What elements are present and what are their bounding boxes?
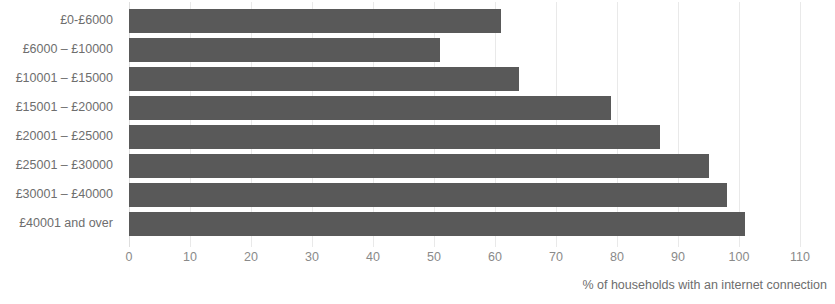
bar — [129, 154, 709, 178]
bar — [129, 183, 727, 207]
category-axis-labels: £0-£6000£6000 – £10000£10001 – £15000£15… — [0, 2, 121, 247]
x-tick-label: 110 — [790, 250, 810, 264]
plot-area — [129, 2, 800, 247]
category-label: £0-£6000 — [60, 6, 113, 35]
bar-band — [129, 151, 800, 180]
value-axis-tick-labels: 0102030405060708090100110 — [0, 250, 835, 272]
bar-band — [129, 35, 800, 64]
bar — [129, 212, 745, 236]
x-tick-label: 0 — [126, 250, 133, 264]
category-label: £20001 – £25000 — [16, 122, 113, 151]
x-tick-label: 30 — [305, 250, 319, 264]
gridline-110 — [800, 2, 801, 247]
x-tick-label: 100 — [729, 250, 750, 264]
bar — [129, 96, 611, 120]
x-tick-label: 50 — [427, 250, 441, 264]
category-label: £25001 – £30000 — [16, 151, 113, 180]
bar — [129, 67, 519, 91]
bar — [129, 9, 501, 33]
category-label: £10001 – £15000 — [16, 64, 113, 93]
category-label: £40001 and over — [19, 209, 113, 238]
x-tick-label: 70 — [549, 250, 563, 264]
bar-band — [129, 93, 800, 122]
bar-band — [129, 122, 800, 151]
category-label: £6000 – £10000 — [23, 35, 113, 64]
bar — [129, 38, 440, 62]
x-tick-label: 40 — [366, 250, 380, 264]
category-label: £15001 – £20000 — [16, 93, 113, 122]
bar-chart-figure: £0-£6000£6000 – £10000£10001 – £15000£15… — [0, 0, 835, 304]
bar-band — [129, 180, 800, 209]
x-tick-label: 60 — [488, 250, 502, 264]
x-tick-label: 80 — [610, 250, 624, 264]
bar-band — [129, 64, 800, 93]
x-axis-title: % of households with an internet connect… — [582, 278, 827, 292]
x-tick-label: 10 — [183, 250, 197, 264]
bar-band — [129, 209, 800, 238]
bar-series — [129, 2, 800, 247]
bar — [129, 125, 660, 149]
x-tick-label: 20 — [244, 250, 258, 264]
category-label: £30001 – £40000 — [16, 180, 113, 209]
bar-band — [129, 6, 800, 35]
x-tick-label: 90 — [671, 250, 685, 264]
